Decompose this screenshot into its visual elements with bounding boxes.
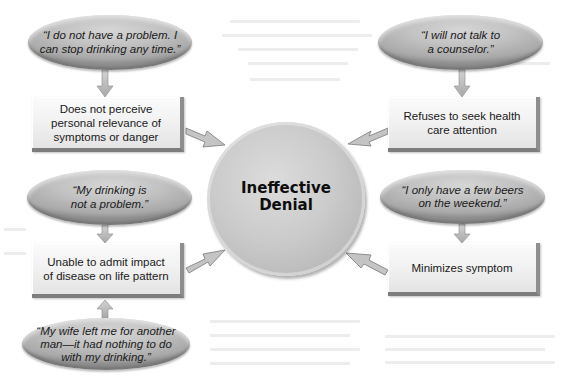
quote-ellipse-bottom-left: “My drinking is not a problem.” [27, 170, 192, 225]
quote-ellipse-bottom-right: “I only have a few beers on the weekend.… [380, 170, 545, 224]
behavior-box-top-left: Does not perceive personal relevance of … [32, 97, 184, 152]
quote-ellipse-top-left: “I do not have a problem. I can stop dri… [28, 15, 192, 70]
quote-ellipse-top-right: “I will not talk to a counselor.” [378, 15, 543, 70]
quote-text: “I will not talk to a counselor.” [421, 29, 500, 56]
quote-text: “My drinking is not a problem.” [71, 184, 148, 211]
quote-text: “My wife left me for another man—it had … [36, 325, 175, 364]
arrow-down-icon [97, 225, 113, 243]
arrow-down-icon [97, 70, 113, 97]
behavior-text: Minimizes symptom [412, 261, 513, 275]
behavior-box-top-right: Refuses to seek health care attention [388, 97, 540, 152]
quote-text: “I do not have a problem. I can stop dri… [40, 29, 181, 56]
behavior-text: Does not perceive personal relevance of … [51, 102, 161, 144]
central-concept-label: Ineffective Denial [241, 180, 331, 214]
central-concept-node: Ineffective Denial [207, 122, 365, 276]
arrow-up-icon [97, 300, 113, 318]
behavior-box-bottom-right: Minimizes symptom [388, 243, 540, 296]
behavior-text: Refuses to seek health care attention [404, 109, 521, 137]
arrow-down-icon [454, 70, 470, 97]
behavior-text: Unable to admit impact of disease on lif… [43, 255, 168, 283]
behavior-box-bottom-left: Unable to admit impact of disease on lif… [32, 243, 184, 298]
quote-text: “I only have a few beers on the weekend.… [401, 184, 523, 211]
quote-ellipse-bottom-extra: “My wife left me for another man—it had … [22, 318, 190, 370]
arrow-down-icon [454, 224, 470, 243]
